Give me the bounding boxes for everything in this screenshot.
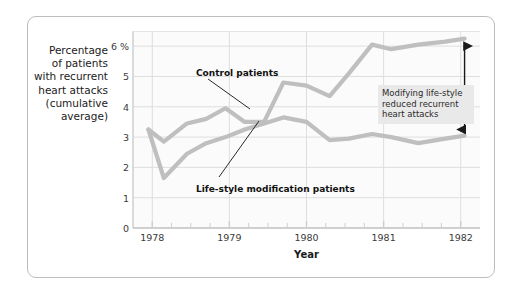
- y-axis-title-line-3: with recurrent: [24, 70, 108, 83]
- y-tick-label-2: 2: [103, 162, 129, 173]
- y-tick-label-1: 1: [103, 192, 129, 203]
- y-tick-label-3: 3: [103, 132, 129, 143]
- y-axis-title-line-1: Percentage: [24, 44, 108, 57]
- y-axis-title-line-4: heart attacks: [24, 84, 108, 97]
- x-tick-label-1979: 1979: [217, 232, 241, 243]
- chart-figure: Percentage of patients with recurrent he…: [0, 0, 514, 296]
- x-tick-label-1981: 1981: [372, 232, 396, 243]
- gap-annotation-line-2: reduced recurrent: [382, 99, 470, 110]
- control-patients-callout-label: Control patients: [196, 68, 278, 78]
- y-tick-label-6: 6 %: [103, 41, 129, 52]
- x-tick-label-1980: 1980: [294, 232, 318, 243]
- annotation-leaders: [133, 31, 480, 228]
- y-axis-title-line-2: of patients: [24, 57, 108, 70]
- y-tick-label-5: 5: [103, 71, 129, 82]
- gap-annotation-line-1: Modifying life-style: [382, 88, 470, 99]
- y-tick-label-4: 4: [103, 101, 129, 112]
- x-tick-label-1978: 1978: [140, 232, 164, 243]
- y-tick-label-0: 0: [103, 223, 129, 234]
- y-axis-tick-labels: 0123456 %: [103, 31, 129, 228]
- x-axis-title: Year: [133, 249, 480, 260]
- y-axis-title: Percentage of patients with recurrent he…: [24, 44, 108, 123]
- y-axis-title-line-5: (cumulative: [24, 97, 108, 110]
- y-axis-title-line-6: average): [24, 110, 108, 123]
- x-tick-label-1982: 1982: [449, 232, 473, 243]
- lifestyle-patients-callout-label: Life-style modification patients: [196, 184, 355, 194]
- x-axis-tick-labels: 19781979198019811982: [133, 232, 480, 248]
- gap-annotation-box: Modifying life-style reduced recurrent h…: [378, 85, 474, 124]
- gap-annotation-line-3: heart attacks: [382, 109, 470, 120]
- plot-area: [133, 31, 480, 228]
